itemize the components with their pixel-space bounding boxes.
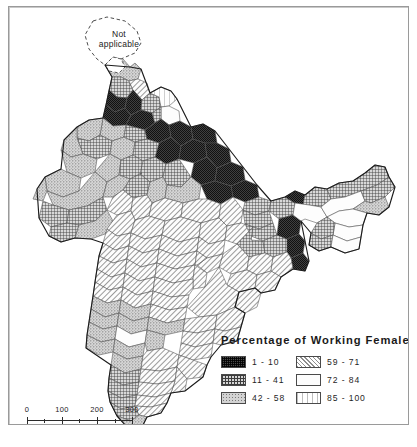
not-applicable-annotation: Not applicable xyxy=(87,29,151,49)
legend-item-59-71: 59 - 71 xyxy=(296,355,366,368)
map-page: Not applicable 0 100 200 300 miles xyxy=(0,0,417,447)
legend-item-72-84: 72 - 84 xyxy=(296,373,366,386)
legend-label-85-100: 85 - 100 xyxy=(327,393,366,403)
legend-label-72-84: 72 - 84 xyxy=(327,375,360,385)
scale-tick-300: 300 xyxy=(125,405,138,414)
legend-label-42-58: 42 - 58 xyxy=(252,393,285,403)
legend-swatch-11-41 xyxy=(221,374,246,386)
scale-rule xyxy=(27,417,147,424)
legend-column-right: 59 - 71 72 - 84 85 - 100 xyxy=(296,355,366,404)
legend-swatch-85-100 xyxy=(296,392,321,404)
legend-item-42-58: 42 - 58 xyxy=(221,391,285,404)
legend-swatch-1-10 xyxy=(221,356,246,368)
legend-item-85-100: 85 - 100 xyxy=(296,391,366,404)
not-applicable-line-2: applicable xyxy=(87,39,151,49)
scale-bar: 0 100 200 300 miles xyxy=(27,405,147,424)
map-legend: Percentage of Working Females 1 - 10 11 … xyxy=(221,334,408,404)
legend-item-11-41: 11 - 41 xyxy=(221,373,285,386)
legend-swatch-59-71 xyxy=(296,356,321,368)
legend-label-11-41: 11 - 41 xyxy=(252,375,284,385)
scale-tick-100: 100 xyxy=(55,405,68,414)
legend-label-59-71: 59 - 71 xyxy=(327,357,360,367)
scale-tick-200: 200 xyxy=(90,405,103,414)
scale-tick-0: 0 xyxy=(25,405,29,414)
legend-label-1-10: 1 - 10 xyxy=(252,357,279,367)
legend-swatch-42-58 xyxy=(221,392,246,404)
legend-item-1-10: 1 - 10 xyxy=(221,355,285,368)
legend-swatch-72-84 xyxy=(296,374,321,386)
legend-title: Percentage of Working Females xyxy=(221,334,408,346)
scale-tick-labels: 0 100 200 300 xyxy=(27,405,147,416)
map-canvas: Not applicable 0 100 200 300 miles xyxy=(9,7,408,424)
not-applicable-line-1: Not xyxy=(87,29,151,39)
legend-column-left: 1 - 10 11 - 41 42 - 58 xyxy=(221,355,285,404)
